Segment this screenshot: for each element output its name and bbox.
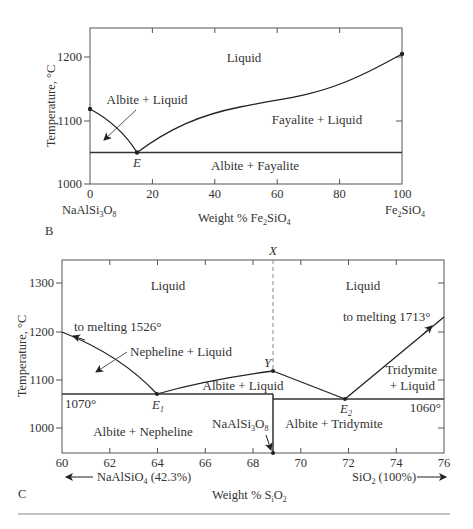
x-tick-label: 20 <box>146 187 159 201</box>
y-axis-label-b: Temperature, °C <box>44 65 58 148</box>
arrow-icon <box>104 110 136 140</box>
region-liquid-b: Liquid <box>227 50 262 65</box>
region-nepheline-liquid: Nepheline + Liquid <box>130 344 232 359</box>
x-ticks-b <box>152 179 339 184</box>
albite-liquidus-right <box>273 371 345 399</box>
x-end-label-right-c: SiO2 (100%) <box>352 470 416 486</box>
x-end-label-left-c: NaAlSiO4 (42.3%) <box>97 470 191 486</box>
y-tick-label: 1000 <box>57 177 82 191</box>
region-albite-fayalite-b: Albite + Fayalite <box>211 158 299 173</box>
x-end-label-left-b: NaAlSi3O8 <box>62 203 117 219</box>
y-tick-label: 1200 <box>57 50 82 64</box>
x-axis-label-b: Weight % Fe2SiO4 <box>198 211 290 227</box>
x-end-label-right-b: Fe2SiO4 <box>385 203 425 219</box>
region-tridymite-liquid-2: + Liquid <box>390 378 436 393</box>
phase-diagrams: 1000 1100 1200 0 20 40 60 80 100 Tempera… <box>0 0 473 529</box>
panel-c: 1000 1100 1200 1300 60 62 64 66 68 70 72… <box>15 243 450 504</box>
x-tick-label: 64 <box>151 456 164 470</box>
panel-b: 1000 1100 1200 0 20 40 60 80 100 Tempera… <box>44 28 425 238</box>
y-tick-label: 1100 <box>57 114 82 128</box>
label-1070: 1070° <box>65 396 96 411</box>
label-melting-1526: to melting 1526° <box>74 319 162 334</box>
label-e1: E1 <box>151 397 164 414</box>
y-ticks-c <box>56 283 444 428</box>
x-tick-label: 60 <box>271 187 284 201</box>
x-tick-label: 40 <box>209 187 222 201</box>
panel-label-b: B <box>45 224 53 238</box>
label-melting-1713: to melting 1713° <box>343 309 431 324</box>
panel-label-c: C <box>18 487 26 501</box>
x-tick-label: 0 <box>87 187 93 201</box>
region-liquid-right-c: Liquid <box>346 278 381 293</box>
x-tick-label: 74 <box>390 456 403 470</box>
region-albite-tridymite: Albite + Tridymite <box>285 416 383 431</box>
top-ticks-b <box>152 28 339 33</box>
eutectic-label-e: E <box>132 155 141 170</box>
x-tick-label: 62 <box>104 456 117 470</box>
y-tick-label: 1300 <box>29 276 54 290</box>
arrow-to-melting-1713-icon <box>422 326 432 335</box>
region-albite-liquid-b: Albite + Liquid <box>107 92 188 107</box>
eutectic-point-e1 <box>155 392 159 396</box>
region-albite-liquid-c: Albite + Liquid <box>203 378 284 393</box>
x-tick-label: 76 <box>438 456 451 470</box>
top-ticks-c <box>110 260 397 265</box>
label-e2: E2 <box>339 401 352 418</box>
albite-melt-point <box>88 107 92 111</box>
region-albite-nepheline: Albite + Nepheline <box>93 424 193 439</box>
label-x: X <box>268 243 278 258</box>
label-albite-composition: NaAlSi3O8 <box>212 416 268 433</box>
point-y <box>271 369 275 373</box>
albite-composition-point <box>271 451 275 455</box>
x-ticks-c <box>110 448 397 453</box>
y-tick-label: 1100 <box>29 373 54 387</box>
label-1060: 1060° <box>410 400 441 415</box>
region-fayalite-liquid-b: Fayalite + Liquid <box>272 112 363 127</box>
arrow-nepheline-liquid-icon <box>96 352 127 372</box>
x-tick-label: 60 <box>56 456 69 470</box>
x-axis-label-c: Weight % SiO2 <box>212 488 287 504</box>
x-tick-label: 68 <box>247 456 260 470</box>
arrow-albite-composition-icon <box>266 435 271 450</box>
label-y: Y <box>264 355 273 370</box>
x-tick-label: 66 <box>199 456 212 470</box>
y-tick-label: 1000 <box>29 421 54 435</box>
x-tick-label: 72 <box>342 456 355 470</box>
region-liquid-left-c: Liquid <box>151 278 186 293</box>
y-tick-label: 1200 <box>29 325 54 339</box>
region-tridymite-liquid-1: Tridymite <box>385 362 437 377</box>
x-tick-label: 70 <box>295 456 308 470</box>
fayalite-melt-point <box>400 52 404 56</box>
x-tick-label: 80 <box>333 187 346 201</box>
x-tick-label: 100 <box>393 187 412 201</box>
y-axis-label-c: Temperature, °C <box>15 315 29 398</box>
